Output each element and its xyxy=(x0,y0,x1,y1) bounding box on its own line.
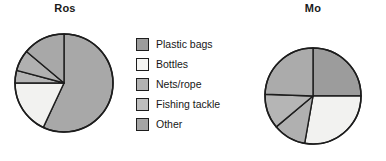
legend-swatch-fishing-tackle xyxy=(136,98,149,111)
legend-label-other: Other xyxy=(156,118,182,131)
legend-item[interactable]: Bottles xyxy=(136,54,240,74)
chart-ros: Ros xyxy=(0,0,130,161)
legend-label-plastic-bags: Plastic bags xyxy=(156,38,213,51)
legend-item[interactable]: Other xyxy=(136,114,240,134)
pie-chart-figure: Ros Plastic bags Bottles Nets/rope Fishi… xyxy=(0,0,386,161)
legend-item[interactable]: Nets/rope xyxy=(136,74,240,94)
legend-item[interactable]: Fishing tackle xyxy=(136,94,240,114)
pie-ros xyxy=(0,0,130,161)
legend-swatch-bottles xyxy=(136,58,149,71)
legend-label-nets-rope: Nets/rope xyxy=(156,78,202,91)
legend-swatch-plastic-bags xyxy=(136,38,149,51)
legend-swatch-other xyxy=(136,118,149,131)
legend-label-fishing-tackle: Fishing tackle xyxy=(156,98,220,111)
legend-label-bottles: Bottles xyxy=(156,58,188,71)
legend-swatch-nets-rope xyxy=(136,78,149,91)
legend-item[interactable]: Plastic bags xyxy=(136,34,240,54)
chart-mo: Mo xyxy=(240,0,386,161)
pie-slice-bottles[interactable] xyxy=(305,96,361,144)
legend: Plastic bags Bottles Nets/rope Fishing t… xyxy=(136,34,240,134)
pie-mo xyxy=(240,0,386,161)
